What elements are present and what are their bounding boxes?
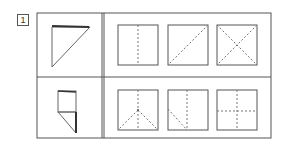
paper-folding-diagram [0, 0, 283, 147]
row2-option-c[interactable] [217, 90, 257, 130]
folded-triangle-shape [52, 26, 90, 67]
row1-option-b[interactable] [168, 25, 208, 65]
row2-option-b[interactable] [168, 90, 208, 130]
row1-option-a[interactable] [118, 25, 158, 65]
row1-option-c[interactable] [217, 25, 257, 65]
folded-square-flap-shape [58, 91, 76, 133]
row2-option-a[interactable] [118, 90, 158, 130]
